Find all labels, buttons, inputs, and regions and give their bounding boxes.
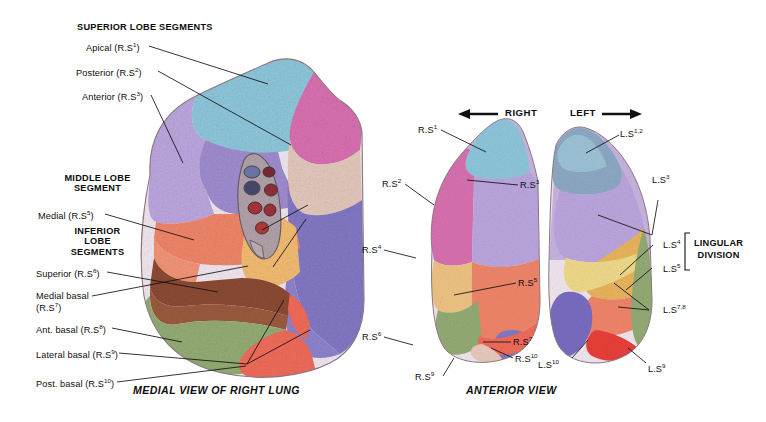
- header-inferior-lobe-line2: LOBE: [84, 236, 111, 246]
- label-rs2: R.S2: [382, 177, 401, 189]
- label-rs1: R.S1: [418, 123, 437, 135]
- r-medial: [472, 258, 540, 338]
- header-middle-lobe-line1: MIDDLE LOBE: [64, 173, 130, 183]
- label-rs10: R.S10: [515, 352, 538, 364]
- direction-label-right: RIGHT: [505, 108, 537, 119]
- header-superior-lobe-segments: SUPERIOR LOBE SEGMENTS: [77, 22, 213, 32]
- label-ls5: L.S5: [663, 262, 681, 274]
- label-ant-basal: Ant. basal (R.S8): [36, 323, 106, 335]
- label-anterior: Anterior (R.S3): [82, 90, 143, 102]
- header-middle-lobe-line2: SEGMENT: [74, 183, 121, 193]
- header-middle-lobe-segment: MIDDLE LOBE SEGMENT: [45, 173, 150, 194]
- lingular-bracket: [685, 233, 690, 270]
- label-superior: Superior (R.S6): [36, 267, 100, 279]
- label-rs9: R.S9: [415, 370, 434, 382]
- label-posterior: Posterior (R.S2): [76, 66, 142, 78]
- caption-medial-view: MEDIAL VIEW OF RIGHT LUNG: [133, 385, 300, 397]
- lingular-division-label: LINGULAR DIVISION: [694, 238, 743, 261]
- label-ls9: L.S9: [648, 362, 666, 374]
- label-rs3: R.S3: [520, 178, 539, 190]
- lingular-line2: DIVISION: [698, 250, 740, 260]
- caption-anterior-view: ANTERIOR VIEW: [466, 385, 557, 397]
- label-rs6: R.S6: [362, 330, 381, 342]
- lingular-line1: LINGULAR: [694, 238, 743, 248]
- label-ls3: L.S3: [652, 173, 670, 185]
- label-ls12: L.S1,2: [620, 127, 643, 139]
- figure-root: SUPERIOR LOBE SEGMENTS MIDDLE LOBE SEGME…: [0, 0, 766, 422]
- r-lateral-gold: [431, 260, 478, 313]
- label-apical: Apical (R.S1): [86, 41, 140, 53]
- direction-arrows: [458, 109, 642, 119]
- label-ls4: L.S4: [663, 238, 681, 250]
- header-inferior-lobe-line3: SEGMENTS: [71, 247, 125, 257]
- label-rs7: R.S7: [513, 335, 532, 347]
- label-lateral-basal: Lateral basal (R.S9): [36, 348, 118, 360]
- label-post-basal: Post. basal (R.S10): [36, 377, 114, 389]
- label-medial-basal: Medial basal (R.S7): [36, 291, 89, 314]
- label-ls78: L.S7,8: [663, 303, 686, 315]
- header-inferior-lobe-segments: INFERIOR LOBE SEGMENTS: [45, 226, 150, 257]
- header-inferior-lobe-line1: INFERIOR: [75, 226, 121, 236]
- label-ls10: L.S10: [538, 358, 559, 370]
- label-medial: Medial (R.S5): [38, 209, 94, 221]
- label-rs5: R.S5: [518, 276, 537, 288]
- direction-label-left: LEFT: [570, 108, 596, 119]
- label-rs4: R.S4: [362, 243, 381, 255]
